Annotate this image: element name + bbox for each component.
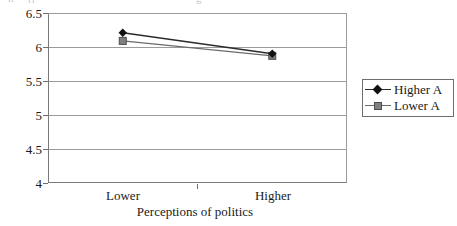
legend-item-higher-a: Higher A	[363, 82, 453, 98]
clipped-fragment-3: g	[196, 0, 202, 3]
legend-label-higher-a: Higher A	[391, 83, 442, 97]
clipped-text-artifact: n ri g	[0, 0, 457, 9]
chart-legend: Higher A Lower A	[362, 79, 454, 117]
plot-area	[48, 13, 347, 183]
y-tick-label-4: 4	[8, 177, 42, 190]
gridline-5	[49, 115, 346, 116]
gridline-4.5	[49, 149, 346, 150]
clipped-fragment-1: n	[8, 0, 14, 3]
x-tick-label-lower: Lower	[93, 189, 153, 203]
gridline-6	[49, 47, 346, 48]
legend-marker-square-icon	[365, 99, 391, 113]
y-tick-label-4.5: 4.5	[8, 143, 42, 156]
y-tick-label-6: 6	[8, 41, 42, 54]
y-tick-label-5.5: 5.5	[8, 75, 42, 88]
legend-marker-diamond-icon	[365, 83, 391, 97]
legend-label-lower-a: Lower A	[391, 99, 440, 113]
chart-screenshot: n ri g OCBO 6.5 6 5.5 5 4.5 4 Lower High…	[0, 0, 457, 226]
y-tick-label-5: 5	[8, 109, 42, 122]
x-axis-title: Perceptions of politics	[0, 205, 390, 219]
y-tick-label-6.5: 6.5	[8, 7, 42, 20]
x-tick-label-higher: Higher	[243, 189, 303, 203]
legend-item-lower-a: Lower A	[363, 98, 453, 114]
y-tick-mark-4	[43, 183, 48, 184]
x-tick-mark-mid	[197, 184, 198, 189]
gridline-5.5	[49, 81, 346, 82]
clipped-fragment-2: ri	[28, 0, 35, 4]
